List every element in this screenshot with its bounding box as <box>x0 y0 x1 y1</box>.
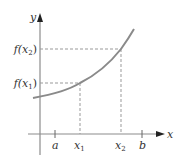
x-tick-label-x1: x1 <box>74 139 85 153</box>
x-axis-arrow-icon <box>156 131 165 137</box>
y-axis-arrow-icon <box>37 13 43 22</box>
function-graph-diagram: y x a x1 x2 b f(x2) f(x1) <box>0 0 180 163</box>
y-axis-label: y <box>29 11 37 24</box>
y-tick-label-fx1: f(x1) <box>13 77 37 91</box>
function-curve <box>33 29 134 98</box>
x-axis-label: x <box>167 128 174 141</box>
x-tick-label-a: a <box>52 139 59 152</box>
graph-canvas: y x a x1 x2 b f(x2) f(x1) <box>0 0 180 163</box>
x-tick-label-x2: x2 <box>115 139 126 153</box>
y-tick-label-fx2: f(x2) <box>13 43 37 57</box>
x-tick-label-b: b <box>139 139 146 152</box>
